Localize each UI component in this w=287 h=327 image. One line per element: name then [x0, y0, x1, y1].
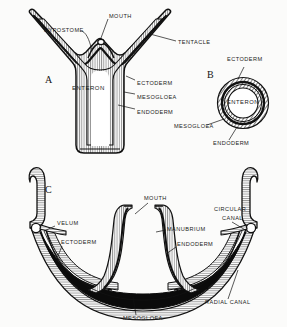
panel-letter-a: A: [45, 75, 52, 85]
label-endoderm-a: ENDODERM: [137, 110, 173, 116]
label-mouth-c: MOUTH: [144, 196, 167, 202]
label-manubrium: MANUBRIUM: [167, 227, 206, 233]
label-ectoderm-c: ECTODERM: [61, 240, 97, 246]
label-velum: VELUM: [57, 221, 79, 227]
leader-endoderm-b: [229, 127, 237, 140]
medusa-right-arm: [242, 168, 258, 228]
label-mouth-a: MOUTH: [109, 14, 132, 20]
medusa-left-arm: [29, 168, 45, 228]
leader-ectoderm-a: [126, 76, 135, 80]
label-endoderm-b: ENDODERM: [213, 141, 249, 147]
panel-letter-b: B: [207, 70, 214, 80]
label-mesogloea-c: MESOGLOEA: [123, 316, 163, 322]
polyp-enteron-cavity: [91, 71, 109, 146]
anatomy-illustration-svg: [0, 0, 287, 327]
polyp-right-tentacle-lumen: [118, 17, 164, 68]
label-enteron-a: ENTERON: [72, 85, 105, 91]
medusa-right-circular-canal: [246, 223, 255, 232]
medusa-left-circular-canal: [31, 223, 40, 232]
figure-plate: A B C HYPOSTOME MOUTH TENTACLE ENTERON E…: [0, 0, 287, 327]
label-tentacle: TENTACLE: [178, 40, 210, 46]
label-mesogloea-b: MESOGLOEA: [174, 124, 214, 130]
leader-mouth: [101, 19, 108, 38]
label-ectoderm-a: ECTODERM: [137, 81, 173, 87]
leader-mesogloea-a: [124, 92, 135, 94]
panel-letter-c: C: [45, 185, 52, 195]
polyp-left-tentacle-lumen: [36, 17, 82, 68]
label-circular-canal-line1: CIRCULAR: [214, 207, 246, 213]
polyp-mouth-opening: [98, 39, 104, 44]
label-enteron-b: ENTERON: [227, 100, 259, 106]
label-radial-canal: RADIAL CANAL: [205, 300, 251, 306]
label-circular-canal-line2: CANAL: [222, 216, 243, 222]
label-mesogloea-a: MESOGLOEA: [137, 95, 177, 101]
leader-tentacle: [150, 34, 176, 41]
label-endoderm-c: ENDODERM: [177, 242, 213, 248]
label-hypostome: HYPOSTOME: [44, 28, 84, 34]
leader-mouth-c: [135, 203, 148, 214]
label-ectoderm-b: ECTODERM: [227, 57, 263, 63]
